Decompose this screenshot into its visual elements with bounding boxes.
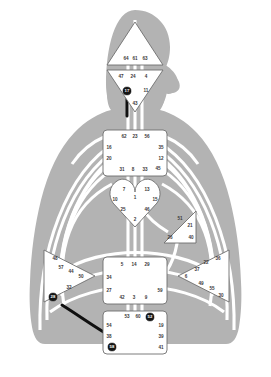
gate-29[interactable]: 29: [144, 262, 150, 267]
gate-41[interactable]: 41: [158, 345, 164, 350]
bodygraph-canvas: 64 61 63 47 24 4 17 11 43 62 23 56 16 20…: [0, 0, 271, 377]
gate-8[interactable]: 8: [132, 167, 135, 172]
gate-31[interactable]: 31: [119, 167, 125, 172]
gate-54[interactable]: 54: [106, 323, 112, 328]
gate-15[interactable]: 15: [152, 197, 158, 202]
gate-64[interactable]: 64: [123, 56, 129, 61]
gate-7[interactable]: 7: [123, 187, 126, 192]
gate-62[interactable]: 62: [121, 134, 127, 139]
gate-32[interactable]: 32: [66, 285, 72, 290]
gate-20[interactable]: 20: [106, 156, 112, 161]
gate-45[interactable]: 45: [155, 166, 161, 171]
gate-2[interactable]: 2: [134, 217, 137, 222]
gate-21[interactable]: 21: [187, 223, 193, 228]
gate-49[interactable]: 49: [198, 281, 204, 286]
gate-33[interactable]: 33: [142, 167, 148, 172]
gate-57[interactable]: 57: [58, 265, 64, 270]
gate-10[interactable]: 10: [112, 197, 118, 202]
center-throat[interactable]: 62 23 56 16 20 35 12 31 8 33 45: [103, 130, 167, 176]
gate-5[interactable]: 5: [121, 262, 124, 267]
gate-53[interactable]: 53: [124, 314, 130, 319]
gate-42[interactable]: 42: [119, 295, 125, 300]
gate-30[interactable]: 30: [218, 293, 224, 298]
gate-12[interactable]: 12: [158, 156, 164, 161]
gate-46[interactable]: 46: [144, 207, 150, 212]
gate-55[interactable]: 55: [209, 286, 215, 291]
gate-23[interactable]: 23: [132, 134, 138, 139]
gate-11[interactable]: 11: [144, 88, 149, 93]
gate-38[interactable]: 38: [106, 334, 112, 339]
gate-59[interactable]: 59: [157, 288, 163, 293]
gate-16[interactable]: 16: [106, 145, 112, 150]
gate-6[interactable]: 6: [185, 274, 188, 279]
gate-36[interactable]: 36: [215, 256, 221, 261]
gate-9[interactable]: 9: [145, 295, 148, 300]
gate-27[interactable]: 27: [106, 288, 112, 293]
gate-50[interactable]: 50: [78, 274, 84, 279]
gate-17[interactable]: 17: [125, 88, 130, 93]
gate-35[interactable]: 35: [158, 145, 164, 150]
gate-19[interactable]: 19: [158, 323, 164, 328]
gate-34[interactable]: 34: [106, 275, 112, 280]
gate-58[interactable]: 58: [110, 344, 115, 349]
gate-1[interactable]: 1: [134, 195, 137, 200]
gate-52[interactable]: 52: [148, 314, 153, 319]
center-sacral[interactable]: 5 14 29 34 27 59 42 3 9: [103, 257, 167, 304]
gate-60[interactable]: 60: [135, 314, 141, 319]
gate-14[interactable]: 14: [131, 262, 137, 267]
gate-37[interactable]: 37: [194, 267, 200, 272]
gate-63[interactable]: 63: [142, 56, 148, 61]
gate-4[interactable]: 4: [145, 74, 148, 79]
gate-51[interactable]: 51: [177, 216, 183, 221]
gate-43[interactable]: 43: [132, 101, 138, 106]
gate-39[interactable]: 39: [158, 334, 164, 339]
gate-61[interactable]: 61: [132, 56, 138, 61]
gate-47[interactable]: 47: [118, 74, 124, 79]
gate-28[interactable]: 28: [51, 294, 56, 299]
gate-13[interactable]: 13: [144, 187, 150, 192]
gate-48[interactable]: 48: [52, 256, 58, 261]
gate-22[interactable]: 22: [203, 260, 209, 265]
gate-26[interactable]: 26: [167, 235, 173, 240]
gate-25[interactable]: 25: [120, 207, 126, 212]
gate-56[interactable]: 56: [144, 134, 150, 139]
gate-40[interactable]: 40: [188, 235, 194, 240]
center-root[interactable]: 53 60 52 54 38 19 39 41 58: [103, 311, 167, 354]
gate-3[interactable]: 3: [133, 295, 136, 300]
gate-24[interactable]: 24: [130, 74, 136, 79]
gate-44[interactable]: 44: [68, 269, 74, 274]
